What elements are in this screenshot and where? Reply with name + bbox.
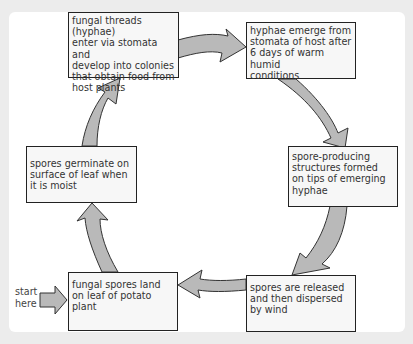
step-box-emerge: hyphae emerge from stomata of host after… bbox=[246, 22, 356, 79]
arrow-emerge-to-spore-structures bbox=[278, 79, 348, 148]
step-box-threads: fungal threads (hyphae) enter via stomat… bbox=[68, 12, 179, 78]
arrow-structures-to-release bbox=[292, 206, 347, 275]
start-arrow bbox=[40, 286, 67, 314]
arrow-release-to-land bbox=[178, 270, 246, 298]
start-label: start here bbox=[15, 286, 37, 310]
arrow-threads-to-emerge bbox=[178, 29, 246, 62]
step-box-release: spores are released and then dispersed b… bbox=[246, 275, 356, 332]
step-box-structures: spore-producing structures formed on tip… bbox=[288, 146, 398, 207]
step-box-germinate: spores germinate on surface of leaf when… bbox=[26, 146, 137, 203]
arrow-land-to-germinate bbox=[77, 203, 118, 272]
step-box-land: fungal spores land on leaf of potato pla… bbox=[68, 272, 178, 331]
